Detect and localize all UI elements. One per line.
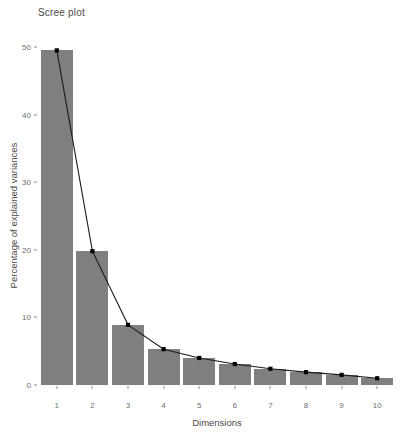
bar: [148, 349, 180, 385]
bar: [41, 50, 73, 385]
y-tick-mark: [34, 317, 37, 318]
x-tick-mark: [377, 386, 378, 389]
y-tick-label: 30: [5, 178, 31, 187]
x-tick-mark: [199, 386, 200, 389]
bar: [290, 372, 322, 385]
y-tick-label: 40: [5, 110, 31, 119]
x-tick-label: 3: [126, 401, 130, 410]
x-tick-label: 4: [161, 401, 165, 410]
y-tick-mark: [34, 249, 37, 250]
bar: [112, 325, 144, 385]
x-tick-label: 8: [304, 401, 308, 410]
bar: [361, 378, 393, 385]
x-tick-label: 1: [55, 401, 59, 410]
scree-plot-figure: Scree plot Percentage of explained varia…: [0, 0, 415, 439]
y-axis-title: Percentage of explained variances: [8, 126, 19, 306]
y-tick-mark: [34, 385, 37, 386]
bar: [219, 364, 251, 385]
x-tick-label: 5: [197, 401, 201, 410]
x-tick-mark: [163, 386, 164, 389]
y-tick-label: 50: [5, 43, 31, 52]
bar: [254, 369, 286, 385]
x-tick-label: 6: [233, 401, 237, 410]
x-tick-mark: [234, 386, 235, 389]
bar: [76, 251, 108, 385]
x-axis-title: Dimensions: [39, 417, 395, 428]
x-tick-label: 2: [90, 401, 94, 410]
bar: [183, 358, 215, 385]
y-tick-mark: [34, 114, 37, 115]
x-tick-label: 10: [373, 401, 382, 410]
bar: [326, 375, 358, 385]
y-tick-label: 10: [5, 313, 31, 322]
x-tick-mark: [128, 386, 129, 389]
x-tick-mark: [92, 386, 93, 389]
y-tick-mark: [34, 182, 37, 183]
x-tick-mark: [341, 386, 342, 389]
y-tick-label: 0: [5, 381, 31, 390]
x-tick-mark: [270, 386, 271, 389]
chart-title: Scree plot: [38, 7, 85, 18]
x-tick-label: 7: [268, 401, 272, 410]
x-tick-label: 9: [339, 401, 343, 410]
y-tick-mark: [34, 47, 37, 48]
y-tick-label: 20: [5, 245, 31, 254]
x-tick-mark: [56, 386, 57, 389]
x-tick-mark: [306, 386, 307, 389]
